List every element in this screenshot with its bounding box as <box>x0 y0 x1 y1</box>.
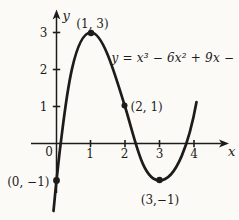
point-dot-0-neg1 <box>53 177 60 184</box>
x-tick-label-2: 2 <box>121 147 129 161</box>
point-dot-3-neg1 <box>156 177 162 183</box>
x-axis-label: x <box>228 144 236 159</box>
x-tick-label-1: 1 <box>86 147 94 161</box>
point-label-3-neg1: (3,−1) <box>141 193 180 207</box>
point-label-2-1: (2, 1) <box>131 100 163 114</box>
x-tick-label-4: 4 <box>190 147 198 161</box>
point-label-0-neg1: (0, −1) <box>7 175 49 189</box>
point-dot-2-1 <box>122 103 128 109</box>
cubic-function-plot: y x 0 1 2 3 4 1 2 3 (0, −1) (1, 3) (2, 1… <box>0 0 238 220</box>
origin-label: 0 <box>45 145 53 159</box>
point-label-1-3: (1, 3) <box>76 17 108 31</box>
y-tick-label-2: 2 <box>40 63 48 77</box>
y-tick-label-3: 3 <box>40 26 48 40</box>
point-dot-1-3 <box>88 30 94 36</box>
textbook-figure: y x 0 1 2 3 4 1 2 3 (0, −1) (1, 3) (2, 1… <box>0 0 238 220</box>
x-tick-label-3: 3 <box>156 147 164 161</box>
y-axis-label: y <box>62 8 71 23</box>
equation-label: y = x³ − 6x² + 9x − 1 <box>111 51 239 65</box>
y-tick-label-1: 1 <box>40 100 48 114</box>
